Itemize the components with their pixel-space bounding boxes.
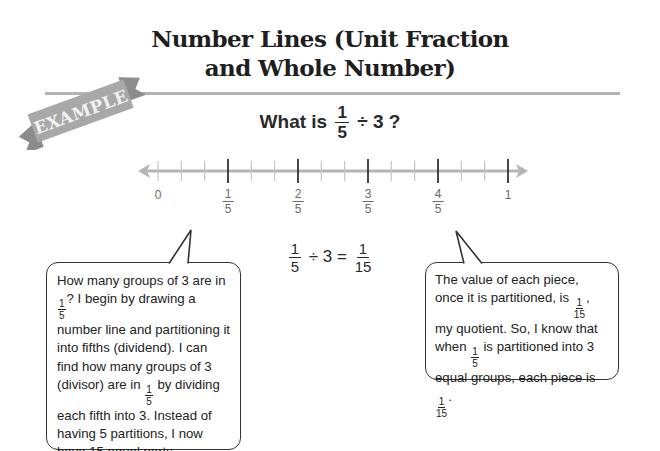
speech-bubble-right: The value of each piece, once it is part… xyxy=(425,262,619,380)
inline-fraction: 115 xyxy=(574,298,585,320)
inline-fraction: 15 xyxy=(58,299,66,321)
speech-bubble-right-tail xyxy=(452,228,492,266)
number-line-label: 35 xyxy=(363,188,374,215)
number-line-label: 0 xyxy=(155,188,162,202)
number-line-label: 1 xyxy=(505,188,512,202)
equation-operator: ÷ 3 = xyxy=(309,247,347,266)
inline-fraction: 115 xyxy=(436,397,447,419)
equation-rhs-fraction: 1 15 xyxy=(355,241,372,274)
inline-fraction: 15 xyxy=(471,347,479,369)
question-fraction: 1 5 xyxy=(335,104,348,141)
speech-bubble-left: How many groups of 3 are in 15? I begin … xyxy=(46,262,241,450)
equation-lhs-fraction: 1 5 xyxy=(289,241,301,274)
number-line-label: 15 xyxy=(223,188,234,215)
question-prefix: What is xyxy=(260,111,328,132)
question-prompt: What is 1 5 ÷ 3 ? xyxy=(0,104,660,141)
number-line-label: 45 xyxy=(433,188,444,215)
title-line-1: Number Lines (Unit Fraction xyxy=(0,24,660,53)
speech-bubble-left-tail xyxy=(165,228,205,266)
number-line xyxy=(0,150,660,230)
inline-fraction: 15 xyxy=(145,385,153,407)
question-suffix: ÷ 3 ? xyxy=(357,111,400,132)
number-line-label: 25 xyxy=(293,188,304,215)
